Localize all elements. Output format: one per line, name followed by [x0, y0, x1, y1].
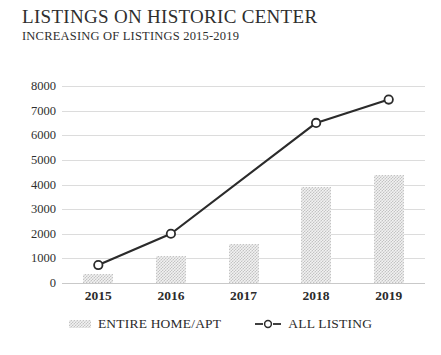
legend-item-all-listing[interactable]: ALL LISTING [255, 316, 372, 332]
legend-item-label: ENTIRE HOME/APT [98, 316, 221, 332]
title-block: LISTINGS ON HISTORIC CENTER INCREASING O… [22, 6, 422, 44]
y-axis-tick-label: 4000 [10, 179, 56, 192]
hatched-bar-swatch-icon [69, 320, 91, 328]
y-axis-tick-label: 3000 [10, 203, 56, 216]
all-listing-line [98, 100, 388, 265]
x-axis-tick-label-2019: 2019 [352, 289, 425, 303]
data-point-2018 [312, 119, 320, 127]
y-axis-labels: 010002000300040005000600070008000 [8, 86, 56, 283]
y-axis-tick-label: 5000 [10, 154, 56, 167]
data-point-2015 [94, 261, 102, 269]
data-point-2016 [167, 230, 175, 238]
chart-legend: ENTIRE HOME/APT ALL LISTING [0, 316, 441, 332]
y-axis-tick-label: 6000 [10, 129, 56, 142]
y-axis-tick-label: 1000 [10, 252, 56, 265]
gridline [62, 283, 425, 284]
x-axis-tick-label-2015: 2015 [62, 289, 135, 303]
line-series-all-listing [62, 86, 425, 283]
y-axis-tick-label: 8000 [10, 80, 56, 93]
line-circle-swatch-icon [255, 319, 281, 329]
all-listing-markers [94, 95, 393, 269]
chart-title: LISTINGS ON HISTORIC CENTER [22, 6, 422, 28]
y-axis-tick-label: 0 [10, 277, 56, 290]
data-point-2019 [385, 95, 393, 103]
y-axis-tick-label: 2000 [10, 228, 56, 241]
legend-item-entire-home-apt[interactable]: ENTIRE HOME/APT [69, 316, 221, 332]
y-axis-tick-label: 7000 [10, 105, 56, 118]
x-axis-tick-label-2016: 2016 [135, 289, 208, 303]
plot-area [62, 86, 425, 283]
chart-container: LISTINGS ON HISTORIC CENTER INCREASING O… [0, 0, 441, 355]
legend-item-label: ALL LISTING [288, 316, 372, 332]
x-axis-tick-label-2017: 2017 [207, 289, 280, 303]
chart-subtitle: INCREASING OF LISTINGS 2015-2019 [22, 29, 422, 44]
x-axis-tick-label-2018: 2018 [280, 289, 353, 303]
